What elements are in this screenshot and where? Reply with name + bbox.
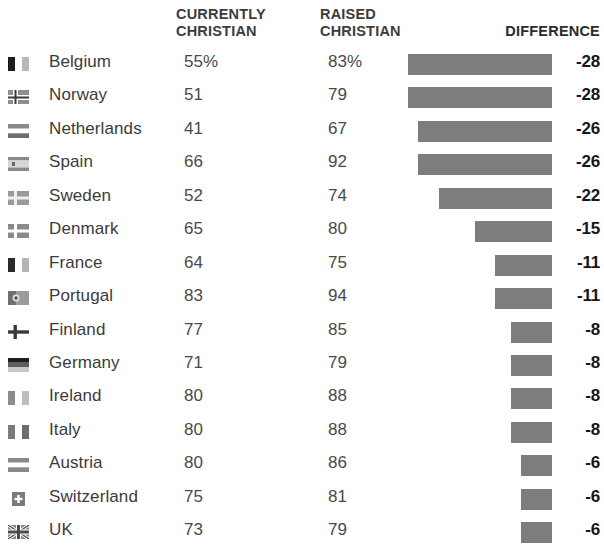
religion-change-table-chart: CURRENTLY CHRISTIAN RAISED CHRISTIAN DIF… [0, 0, 604, 546]
difference-bar [418, 121, 552, 142]
difference-bar-track [0, 388, 604, 409]
column-header-difference: DIFFERENCE [440, 23, 600, 40]
difference-value: -28 [556, 85, 600, 105]
difference-bar [495, 255, 552, 276]
difference-value: -26 [556, 152, 600, 172]
difference-value: -28 [556, 52, 600, 72]
table-row: Ireland8088-8 [0, 382, 604, 415]
difference-bar-track [0, 455, 604, 476]
difference-bar-track [0, 288, 604, 309]
difference-bar-track [0, 54, 604, 75]
difference-value: -6 [556, 453, 600, 473]
difference-bar-track [0, 422, 604, 443]
difference-value: -6 [556, 520, 600, 540]
table-row: Sweden5274-22 [0, 182, 604, 215]
table-header: CURRENTLY CHRISTIAN RAISED CHRISTIAN DIF… [0, 0, 604, 48]
difference-bar [408, 87, 552, 108]
difference-value: -26 [556, 119, 600, 139]
table-row: Italy8088-8 [0, 416, 604, 449]
table-row: Finland7785-8 [0, 316, 604, 349]
column-header-currently-christian: CURRENTLY CHRISTIAN [176, 6, 296, 40]
table-row: Denmark6580-15 [0, 215, 604, 248]
column-header-raised-christian: RAISED CHRISTIAN [320, 6, 440, 40]
difference-bar-track [0, 489, 604, 510]
difference-bar [521, 522, 552, 543]
difference-value: -15 [556, 219, 600, 239]
table-row: France6475-11 [0, 249, 604, 282]
difference-value: -8 [556, 353, 600, 373]
difference-bar [439, 188, 552, 209]
difference-bar [521, 455, 552, 476]
table-row: Germany7179-8 [0, 349, 604, 382]
difference-value: -8 [556, 320, 600, 340]
table-row: Switzerland7581-6 [0, 483, 604, 516]
difference-value: -8 [556, 386, 600, 406]
table-row: Norway5179-28 [0, 81, 604, 114]
difference-bar-track [0, 87, 604, 108]
table-row: Netherlands4167-26 [0, 115, 604, 148]
difference-bar [495, 288, 552, 309]
table-row: Austria8086-6 [0, 449, 604, 482]
difference-bar-track [0, 322, 604, 343]
table-row: Belgium55%83%-28 [0, 48, 604, 81]
table-body: Belgium55%83%-28Norway5179-28Netherlands… [0, 48, 604, 546]
table-row: Portugal8394-11 [0, 282, 604, 315]
difference-bar-track [0, 154, 604, 175]
difference-bar-track [0, 221, 604, 242]
difference-bar [511, 322, 552, 343]
table-row: Spain6692-26 [0, 148, 604, 181]
difference-bar-track [0, 522, 604, 543]
difference-value: -22 [556, 186, 600, 206]
difference-bar [475, 221, 552, 242]
difference-value: -6 [556, 487, 600, 507]
difference-bar-track [0, 355, 604, 376]
difference-value: -8 [556, 420, 600, 440]
difference-bar [511, 355, 552, 376]
table-row: UK7379-6 [0, 516, 604, 546]
difference-bar-track [0, 255, 604, 276]
difference-bar [511, 388, 552, 409]
difference-bar [418, 154, 552, 175]
difference-value: -11 [556, 253, 600, 273]
difference-bar [521, 489, 552, 510]
difference-bar [408, 54, 552, 75]
difference-bar [511, 422, 552, 443]
difference-bar-track [0, 188, 604, 209]
difference-value: -11 [556, 286, 600, 306]
difference-bar-track [0, 121, 604, 142]
